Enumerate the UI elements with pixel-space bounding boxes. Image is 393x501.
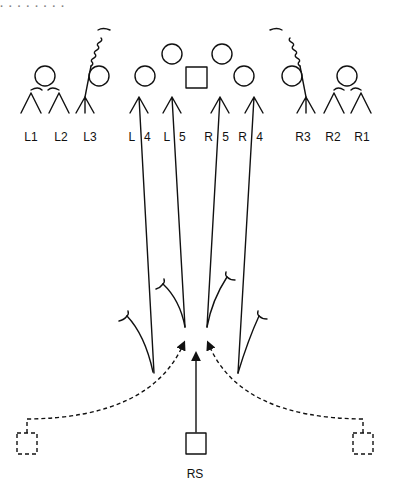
label-rs: RS [187,468,204,480]
legs-icon [49,93,69,113]
player-circle [162,44,182,64]
returner-square [186,433,206,454]
dashed-path-left [27,345,183,433]
label-l4: L 4 [128,131,153,143]
label-r4: R 4 [238,131,266,143]
player-l1-l2-group [21,66,69,113]
return-paths [17,345,373,454]
squiggle-icon [289,38,300,66]
dashed-square-right [353,433,373,454]
label-l2: L2 [54,131,67,143]
legs-icon [21,93,41,113]
hook-icon [98,29,110,31]
kick-return-diagram [0,0,393,501]
wedge-blockers [119,272,267,373]
arm-link-icon [31,88,42,90]
returner [186,356,206,454]
player-circle [212,44,232,64]
label-r5: R 5 [204,131,232,143]
player-r2-r1-group [324,66,371,113]
player-r4-circle [234,66,254,86]
player-l4-circle [135,66,155,86]
label-r2: R2 [325,131,340,143]
label-l5: L 5 [163,131,188,143]
squiggle-icon [91,38,102,66]
hook-icon [270,29,282,31]
label-r3: R3 [295,131,310,143]
player-head-icon [35,66,55,86]
kicker-square [186,67,207,88]
player-r3 [270,29,315,114]
label-l1: L1 [24,131,37,143]
label-r1: R1 [354,131,369,143]
label-l3: L3 [83,131,96,143]
dashed-path-right [209,345,363,433]
player-l3 [76,29,110,114]
dashed-square-left [17,433,37,454]
arm-link-icon [48,88,59,90]
